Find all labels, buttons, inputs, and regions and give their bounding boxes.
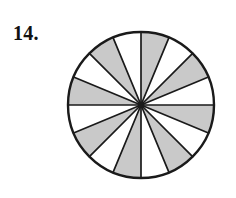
fraction-circle-figure: [62, 24, 220, 188]
problem-number-label: 14.: [13, 22, 39, 44]
center-hub-dot: [138, 102, 144, 108]
figure-panel: 14.: [0, 0, 236, 198]
